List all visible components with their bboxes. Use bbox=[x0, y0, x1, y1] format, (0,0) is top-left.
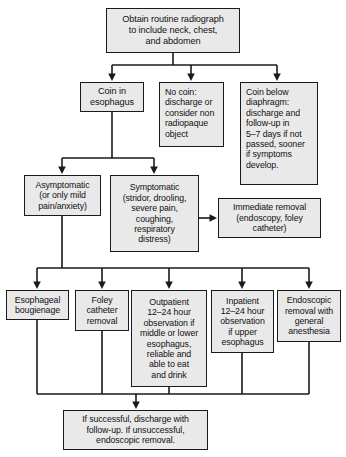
arrow-to-n9 bbox=[98, 282, 106, 290]
node-coin-below-diaphragm: Coin below diaphragm: discharge and foll… bbox=[240, 82, 318, 185]
flowchart-canvas: Obtain routine radiograph to include nec… bbox=[0, 0, 346, 457]
node-esophageal-bougienage: Esophageal bougienage bbox=[6, 290, 69, 320]
arrow-to-n13 bbox=[132, 402, 140, 410]
arrow-to-n3 bbox=[187, 74, 195, 82]
node-coin-in-esophagus: Coin in esophagus bbox=[80, 82, 144, 112]
node-foley-catheter-removal: Foley catheter removal bbox=[75, 290, 129, 331]
node-endoscopic-removal-general-anesthesia: Endoscopic removal with general anesthes… bbox=[277, 290, 341, 342]
arrow-to-n10 bbox=[165, 282, 173, 290]
node-symptomatic: Symptomatic (stridor, drooling, severe p… bbox=[110, 175, 199, 252]
arrow-to-n8 bbox=[33, 282, 41, 290]
node-inpatient-observation: Inpatient 12–24 hour observation if uppe… bbox=[211, 290, 274, 353]
node-no-coin: No coin: discharge or consider non radio… bbox=[159, 82, 224, 147]
node-immediate-removal: Immediate removal (endoscopy, foley cath… bbox=[218, 198, 321, 238]
arrow-to-n4 bbox=[273, 74, 281, 82]
arrow-to-n6 bbox=[150, 167, 158, 175]
arrow-to-n7 bbox=[210, 214, 218, 222]
arrow-to-n2 bbox=[108, 74, 116, 82]
node-obtain-radiograph: Obtain routine radiograph to include nec… bbox=[106, 8, 240, 53]
node-outcome-discharge-or-endoscopic-removal: If successful, discharge with follow-up.… bbox=[63, 410, 208, 450]
arrow-to-n12 bbox=[305, 282, 313, 290]
node-outpatient-observation: Outpatient 12–24 hour observation if mid… bbox=[131, 290, 207, 387]
arrow-to-n5 bbox=[58, 167, 66, 175]
node-asymptomatic: Asymptomatic (or only mild pain/anxiety) bbox=[24, 175, 101, 216]
arrow-to-n11 bbox=[238, 282, 246, 290]
